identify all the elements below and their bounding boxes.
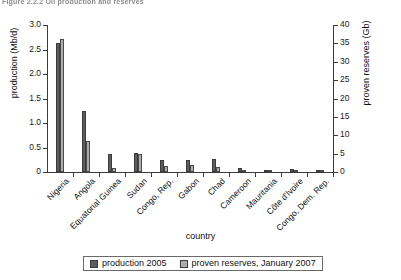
bar-reserves[interactable]: [112, 168, 116, 172]
x-axis-tick: [73, 173, 74, 177]
bar-reserves[interactable]: [242, 170, 246, 172]
legend-item-reserves[interactable]: proven reserves, January 2007: [180, 259, 316, 268]
y-axis-left-tick-label: 2.0: [0, 69, 41, 78]
y-axis-right-tick: [334, 172, 338, 173]
legend-label-reserves: proven reserves, January 2007: [192, 259, 316, 268]
y-axis-right-tick: [334, 62, 338, 63]
bar-production[interactable]: [160, 160, 164, 172]
y-axis-left-tick-label: 1.0: [0, 118, 41, 127]
legend-item-production[interactable]: production 2005: [90, 259, 167, 268]
bar-group[interactable]: [133, 25, 144, 172]
x-axis-category-label: Gabon: [176, 176, 201, 201]
x-axis-line: [47, 172, 334, 173]
y-axis-right-title: proven reserves (Gb): [361, 0, 371, 133]
y-axis-right-tick-label: 20: [340, 94, 349, 103]
x-axis-tick: [307, 173, 308, 177]
legend-swatch-production-icon: [90, 260, 98, 268]
legend-swatch-reserves-icon: [180, 260, 188, 268]
bar-reserves[interactable]: [190, 165, 194, 172]
y-axis-left-tick-label: 0.5: [0, 143, 41, 152]
bar-production[interactable]: [134, 153, 138, 172]
y-axis-right-tick-label: 30: [340, 57, 349, 66]
bar-group[interactable]: [185, 25, 196, 172]
figure-caption: Figure 2.2.2 Oil production and reserves: [2, 0, 144, 5]
legend-label-production: production 2005: [102, 259, 167, 268]
y-axis-left-tick-label: 0: [0, 167, 41, 176]
bar-group[interactable]: [289, 25, 300, 172]
x-axis-tick: [229, 173, 230, 177]
bar-production[interactable]: [212, 159, 216, 172]
bar-reserves[interactable]: [320, 170, 324, 172]
chart-legend: production 2005 proven reserves, January…: [83, 256, 323, 271]
bar-reserves[interactable]: [294, 170, 298, 172]
x-axis-title: country: [0, 231, 401, 241]
bar-reserves[interactable]: [164, 166, 168, 172]
y-axis-right-tick-label: 35: [340, 38, 349, 47]
x-axis-category-label: Chad: [206, 176, 227, 197]
x-axis-tick: [255, 173, 256, 177]
bar-production[interactable]: [108, 154, 112, 172]
bar-group[interactable]: [159, 25, 170, 172]
bar-group[interactable]: [55, 25, 66, 172]
bar-reserves[interactable]: [268, 170, 272, 172]
bar-reserves[interactable]: [86, 141, 90, 172]
bar-group[interactable]: [81, 25, 92, 172]
x-axis-tick: [177, 173, 178, 177]
bar-production[interactable]: [290, 169, 294, 172]
bar-reserves[interactable]: [216, 167, 220, 173]
y-axis-left-tick-label: 3.0: [0, 20, 41, 29]
bar-reserves[interactable]: [60, 39, 64, 172]
x-axis-category-label: Nigeria: [45, 176, 71, 202]
bar-group[interactable]: [263, 25, 274, 172]
y-axis-left-tick: [43, 172, 47, 173]
y-axis-right-tick-label: 15: [340, 112, 349, 121]
y-axis-right-tick-label: 10: [340, 130, 349, 139]
y-axis-right-tick: [334, 135, 338, 136]
bar-production[interactable]: [82, 111, 86, 172]
bar-production[interactable]: [186, 160, 190, 172]
bar-production[interactable]: [238, 168, 242, 172]
bar-group[interactable]: [237, 25, 248, 172]
y-axis-right-tick: [334, 99, 338, 100]
bar-production[interactable]: [56, 43, 60, 172]
y-axis-right-tick: [334, 154, 338, 155]
y-axis-right-tick-label: 0: [340, 167, 345, 176]
bar-group[interactable]: [211, 25, 222, 172]
x-axis-tick: [125, 173, 126, 177]
bar-production[interactable]: [264, 170, 268, 172]
y-axis-right-tick-label: 25: [340, 75, 349, 84]
y-axis-right-tick: [334, 25, 338, 26]
x-axis-tick: [99, 173, 100, 177]
y-axis-right-tick-label: 5: [340, 149, 345, 158]
x-axis-tick: [203, 173, 204, 177]
x-axis-tick: [151, 173, 152, 177]
y-axis-right-tick-label: 40: [340, 20, 349, 29]
x-axis-tick: [281, 173, 282, 177]
bar-group[interactable]: [107, 25, 118, 172]
y-axis-left-tick-label: 2.5: [0, 45, 41, 54]
bar-production[interactable]: [316, 170, 320, 172]
bar-group[interactable]: [315, 25, 326, 172]
x-axis-tick: [333, 173, 334, 177]
plot-area: [47, 25, 333, 172]
bar-reserves[interactable]: [138, 154, 142, 172]
y-axis-left-tick-label: 1.5: [0, 94, 41, 103]
y-axis-right-tick: [334, 43, 338, 44]
y-axis-right-tick: [334, 80, 338, 81]
y-axis-right-tick: [334, 117, 338, 118]
